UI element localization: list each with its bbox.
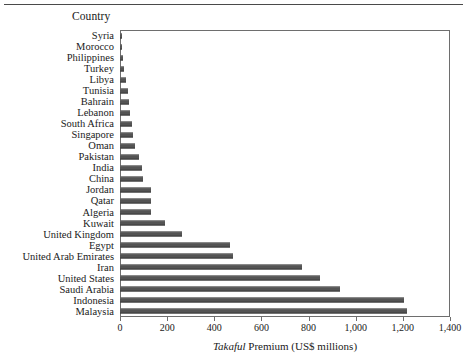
x-axis-title-rest: Premium (US$ millions): [246, 340, 358, 352]
bar-row: [120, 41, 450, 52]
bar: [120, 176, 143, 181]
bar-row: [120, 273, 450, 284]
y-tick-label: United Arab Emirates: [0, 251, 117, 262]
y-tick-label: Algeria: [0, 207, 117, 218]
x-tick-label: 800: [301, 322, 316, 333]
x-axis-title: Takaful Premium (US$ millions): [120, 340, 450, 352]
x-tick-label: 1,400: [439, 322, 462, 333]
bar-row: [120, 129, 450, 140]
bar: [120, 55, 123, 60]
x-tick-mark: [309, 317, 310, 321]
bar-row: [120, 30, 450, 41]
bar-row: [120, 195, 450, 206]
y-tick-label: Oman: [0, 140, 117, 151]
y-tick-label: Singapore: [0, 129, 117, 140]
y-tick-label: Iran: [0, 262, 117, 273]
x-tick-label: 1,200: [392, 322, 415, 333]
y-tick-label: Saudi Arabia: [0, 284, 117, 295]
bar: [120, 110, 130, 115]
y-tick-label: Kuwait: [0, 218, 117, 229]
x-tick-mark: [403, 317, 404, 321]
y-tick-label: Tunisia: [0, 85, 117, 96]
bar-row: [120, 140, 450, 151]
top-divider-rule: [4, 4, 463, 5]
bar-row: [120, 262, 450, 273]
bar: [120, 309, 407, 314]
y-tick-label: Syria: [0, 30, 117, 41]
x-tick-label: 1,000: [344, 322, 367, 333]
bar: [120, 99, 129, 104]
bar: [120, 165, 142, 170]
bar: [120, 88, 128, 93]
y-tick-label: Turkey: [0, 63, 117, 74]
y-tick-label: Lebanon: [0, 107, 117, 118]
bar: [120, 243, 230, 248]
y-tick-label: Pakistan: [0, 151, 117, 162]
bar-row: [120, 52, 450, 63]
y-tick-label: Libya: [0, 74, 117, 85]
x-tick-label: 400: [207, 322, 222, 333]
bar: [120, 121, 132, 126]
y-tick-label: Philippines: [0, 52, 117, 63]
bar: [120, 254, 233, 259]
x-tick-mark: [450, 317, 451, 321]
bar-row: [120, 96, 450, 107]
bar: [120, 143, 135, 148]
y-tick-label: Egypt: [0, 240, 117, 251]
bar: [120, 232, 182, 237]
x-tick-mark: [214, 317, 215, 321]
bar-row: [120, 85, 450, 96]
bar-row: [120, 173, 450, 184]
y-tick-label: China: [0, 173, 117, 184]
bar-row: [120, 284, 450, 295]
bar-row: [120, 74, 450, 85]
chart-figure: Country SyriaMoroccoPhilippinesTurkeyLib…: [0, 0, 467, 361]
bar-row: [120, 251, 450, 262]
bar-row: [120, 162, 450, 173]
x-tick-mark: [120, 317, 121, 321]
bar: [120, 298, 404, 303]
bar-row: [120, 218, 450, 229]
y-tick-label: Bahrain: [0, 96, 117, 107]
bar: [120, 33, 122, 38]
bar: [120, 210, 151, 215]
bar: [120, 154, 139, 159]
bar: [120, 221, 165, 226]
y-axis-tick-labels: SyriaMoroccoPhilippinesTurkeyLibyaTunisi…: [0, 30, 117, 317]
bar: [120, 77, 126, 82]
bar: [120, 187, 151, 192]
y-tick-label: India: [0, 162, 117, 173]
bar-row: [120, 118, 450, 129]
bar: [120, 265, 302, 270]
bar: [120, 66, 124, 71]
bar: [120, 132, 133, 137]
x-tick-mark: [261, 317, 262, 321]
bar-row: [120, 184, 450, 195]
x-tick-label: 0: [118, 322, 123, 333]
x-tick-mark: [167, 317, 168, 321]
x-tick-label: 600: [254, 322, 269, 333]
bar-series: [120, 30, 450, 317]
bar-row: [120, 107, 450, 118]
y-tick-label: Qatar: [0, 195, 117, 206]
y-tick-label: South Africa: [0, 118, 117, 129]
bar: [120, 198, 151, 203]
bar: [120, 287, 340, 292]
y-tick-label: Morocco: [0, 41, 117, 52]
x-axis-title-italic-word: Takaful: [213, 340, 246, 352]
bar-row: [120, 151, 450, 162]
y-tick-label: United Kingdom: [0, 229, 117, 240]
y-axis-title: Country: [72, 10, 110, 22]
x-tick-label: 200: [160, 322, 175, 333]
bar: [120, 44, 122, 49]
bar-row: [120, 207, 450, 218]
bar: [120, 276, 320, 281]
y-tick-label: Jordan: [0, 184, 117, 195]
bar-row: [120, 240, 450, 251]
y-tick-label: Malaysia: [0, 306, 117, 317]
bar-row: [120, 63, 450, 74]
bar-row: [120, 295, 450, 306]
x-tick-mark: [356, 317, 357, 321]
y-tick-label: Indonesia: [0, 295, 117, 306]
y-tick-label: United States: [0, 273, 117, 284]
